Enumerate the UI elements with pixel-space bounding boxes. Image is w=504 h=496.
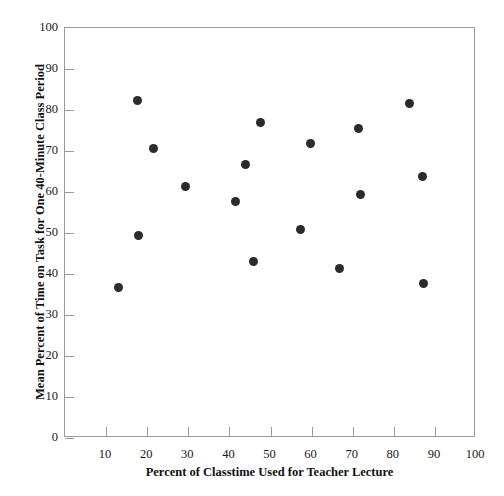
data-point — [356, 190, 365, 199]
data-point — [241, 160, 250, 169]
y-axis-title: Mean Percent of Time on Task for One 40-… — [34, 27, 52, 437]
y-axis-tick — [65, 69, 74, 70]
x-axis-tick-label: 40 — [208, 448, 248, 461]
x-axis-tick — [353, 427, 354, 436]
x-axis-tick — [229, 427, 230, 436]
y-axis-tick — [65, 438, 74, 439]
data-point — [256, 118, 265, 127]
x-axis-tick-label: 10 — [85, 448, 125, 461]
y-axis-tick — [65, 151, 74, 152]
plot-area — [64, 27, 475, 437]
x-axis-tick-label: 50 — [250, 448, 290, 461]
data-point — [296, 225, 305, 234]
x-axis-tick — [188, 427, 189, 436]
data-point — [231, 197, 240, 206]
data-point — [134, 231, 143, 240]
data-point — [133, 96, 142, 105]
x-axis-title: Percent of Classtime Used for Teacher Le… — [64, 466, 475, 480]
y-axis-tick — [65, 233, 74, 234]
data-point — [249, 257, 258, 266]
data-point — [418, 172, 427, 181]
y-axis-tick — [65, 274, 74, 275]
data-point — [114, 283, 123, 292]
x-axis-tick — [147, 427, 148, 436]
y-axis-tick — [65, 397, 74, 398]
data-point — [335, 264, 344, 273]
x-axis-tick-label: 100 — [455, 448, 495, 461]
x-axis-tick-label: 30 — [167, 448, 207, 461]
data-point — [405, 99, 414, 108]
x-axis-tick-label: 60 — [291, 448, 331, 461]
data-point — [181, 182, 190, 191]
y-axis-tick — [65, 356, 74, 357]
y-axis-tick — [65, 315, 74, 316]
data-point — [306, 139, 315, 148]
y-axis-tick — [65, 192, 74, 193]
x-axis-tick-label: 70 — [332, 448, 372, 461]
data-point — [149, 144, 158, 153]
x-axis-tick — [106, 427, 107, 436]
data-point — [354, 124, 363, 133]
scatter-plot-figure: 0102030405060708090100102030405060708090… — [0, 0, 504, 496]
x-axis-tick — [312, 427, 313, 436]
x-axis-tick-label: 80 — [373, 448, 413, 461]
x-axis-tick — [435, 427, 436, 436]
data-points-layer — [65, 28, 474, 436]
x-axis-tick — [271, 427, 272, 436]
x-axis-tick — [394, 427, 395, 436]
y-axis-tick — [65, 110, 74, 111]
x-axis-tick-label: 20 — [126, 448, 166, 461]
data-point — [419, 279, 428, 288]
x-axis-tick-label: 90 — [414, 448, 454, 461]
